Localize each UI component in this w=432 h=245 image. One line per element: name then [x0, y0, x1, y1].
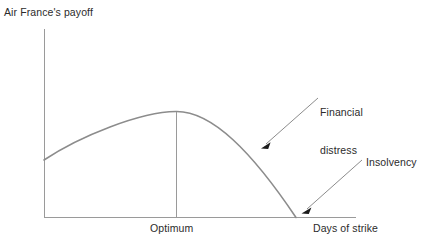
annotation-financial-distress-line1: Financial — [320, 106, 363, 119]
annotation-financial-distress: Financial distress — [320, 81, 363, 181]
optimum-tick-label: Optimum — [150, 222, 193, 235]
payoff-curve — [44, 111, 296, 217]
y-axis-title: Air France's payoff — [4, 6, 93, 19]
x-axis-title: Days of strike — [313, 222, 378, 235]
insolvency-arrowhead — [302, 208, 312, 215]
chart-figure: Air France's payoff Days of strike Optim… — [0, 0, 432, 245]
annotation-financial-distress-line2: distress — [320, 144, 363, 157]
annotation-insolvency: Insolvency — [366, 156, 417, 169]
chart-canvas — [0, 0, 432, 245]
financial-distress-leader — [266, 98, 318, 144]
financial-distress-arrowhead — [261, 142, 271, 149]
